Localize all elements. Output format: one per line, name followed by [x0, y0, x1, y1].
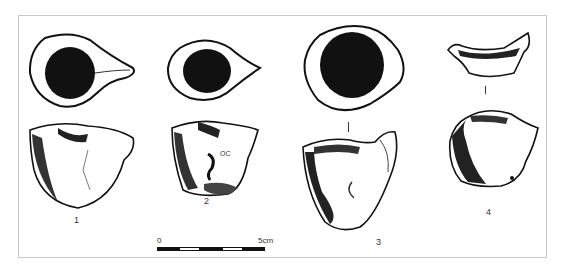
vessel-3-side-view: [300, 122, 410, 237]
scale-segment: [243, 247, 265, 251]
vessel-2-inscription: OC: [220, 150, 231, 157]
scale-end-label: 5cm: [258, 236, 273, 245]
scale-start-label: 0: [157, 236, 161, 245]
vessel-3-label: 3: [376, 237, 381, 247]
scale-bar: 0 5cm: [157, 238, 267, 252]
vessel-2-side-view: OC: [168, 118, 260, 200]
vessel-1-side-view: [28, 120, 138, 210]
vessel-1-top-view: [25, 28, 140, 113]
vessel-2-top-view: [165, 33, 265, 108]
vessel-3-top-view: [300, 20, 410, 120]
scale-segment: [222, 247, 244, 251]
vessel-2-label: 2: [204, 196, 209, 206]
scale-segment: [157, 247, 179, 251]
scale-segment: [200, 247, 222, 251]
vessel-4-view-divider: [485, 86, 486, 94]
vessel-4-top-view: [444, 28, 534, 80]
vessel-1-label: 1: [74, 215, 79, 225]
vessel-4-label: 4: [486, 207, 491, 217]
scale-segment: [179, 247, 201, 251]
vessel-4-side-view: [446, 106, 541, 191]
scale-segments: [157, 247, 265, 251]
